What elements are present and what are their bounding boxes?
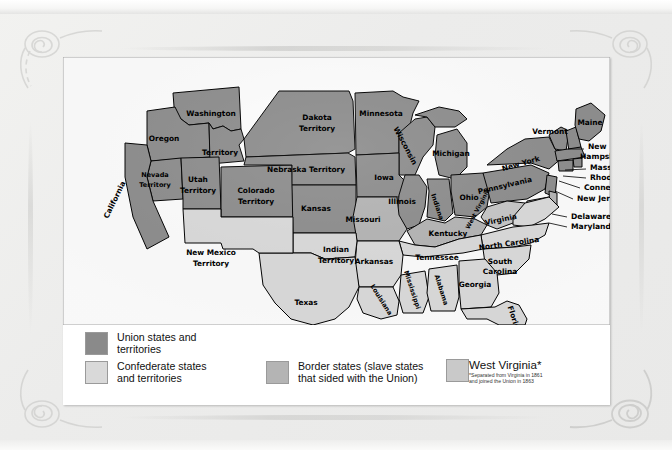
map-label-dakota-territory-1: Dakota [302, 113, 331, 122]
map-label-maine: Maine [577, 118, 602, 127]
map-label-iowa: Iowa [374, 173, 394, 182]
legend-label-union: Union states and territories [117, 331, 197, 356]
leader-line-connecticut [559, 181, 580, 188]
legend-label-west-virginia: West Virginia* [469, 358, 543, 371]
map-label-texas: Texas [294, 298, 318, 307]
map-label-michigan: Michigan [432, 149, 470, 158]
map-label-utah-territory-2: Territory [180, 186, 216, 195]
us-civil-war-map: WashingtonTerritoryOregonCaliforniaNevad… [63, 57, 610, 325]
legend-item-confederate: Confederate states and territories [85, 360, 207, 385]
map-callout-delaware: Delaware [571, 212, 610, 221]
map-label-oregon: Oregon [149, 134, 180, 143]
map-label-nebraska-territory: Nebraska Territory [267, 165, 345, 174]
map-label-utah-territory-1: Utah [188, 175, 208, 184]
map-label-vermont: Vermont [532, 127, 568, 136]
map-callout-massachusetts: Massachusetts [590, 163, 610, 172]
map-callout-rhode-island: Rhode Island [590, 173, 610, 182]
legend-item-border-states: Border states (slave states that sided w… [266, 360, 423, 385]
legend-swatch-border-states [266, 361, 289, 384]
legend-swatch-confederate [85, 361, 108, 384]
map-panel: WashingtonTerritoryOregonCaliforniaNevad… [63, 57, 610, 405]
map-legend: Union states and territories Confederate… [63, 325, 610, 405]
map-label-illinois: Illinois [388, 197, 416, 206]
legend-label-border-states: Border states (slave states that sided w… [298, 360, 423, 385]
map-label-arkansas: Arkansas [355, 257, 394, 266]
legend-item-west-virginia: West Virginia* *Separated from Virginia … [446, 358, 543, 384]
map-label-kentucky: Kentucky [429, 229, 468, 238]
leader-line-delaware [552, 214, 567, 217]
territory-nevada [147, 158, 183, 201]
scanned-page: WashingtonTerritoryOregonCaliforniaNevad… [0, 0, 672, 450]
map-label-new-mexico-2: Territory [193, 259, 229, 268]
border-flourish-top [120, 46, 550, 51]
map-label-missouri: Missouri [345, 215, 380, 224]
map-label-indian-territory-2: Territory [318, 256, 354, 265]
map-label-nevada-territory-2: Territory [139, 181, 171, 189]
legend-swatch-west-virginia [446, 359, 469, 382]
map-label-south-carolina-2: Carolina [483, 267, 517, 276]
border-flourish-bottom [120, 415, 550, 420]
map-label-dakota-territory-2: Territory [299, 124, 335, 133]
map-label-california: California [102, 180, 128, 220]
map-label-new-mexico-1: New Mexico [186, 248, 236, 257]
map-callout-connecticut: Connecticut [584, 183, 610, 192]
leader-line-rhode-island [563, 176, 586, 178]
legend-footnote-west-virginia: *Separated from Virginia in 1861 and joi… [469, 372, 543, 384]
map-label-ohio: Ohio [459, 193, 478, 202]
map-label-tennessee: Tennessee [415, 253, 458, 262]
leader-line-new-jersey [555, 191, 573, 199]
legend-swatch-union [85, 332, 108, 355]
map-label-colorado-territory-2: Territory [238, 197, 274, 206]
state-virginia [513, 197, 559, 227]
map-label-colorado-territory-1: Colorado [237, 186, 274, 195]
map-label-minnesota: Minnesota [359, 109, 402, 118]
map-label-washington-territory: Territory [202, 148, 238, 157]
map-label-georgia: Georgia [459, 280, 492, 289]
map-label-south-carolina-1: South [488, 257, 512, 266]
map-callout-new-hampshire: NewHampshire [580, 142, 610, 161]
map-label-kansas: Kansas [301, 204, 331, 213]
leader-line-maryland [549, 223, 567, 227]
map-label-washington: Washington [186, 109, 236, 118]
border-flourish-left [28, 120, 33, 335]
page-top-edge [0, 0, 672, 14]
map-figure: WashingtonTerritoryOregonCaliforniaNevad… [63, 57, 610, 325]
map-callout-maryland: Maryland [571, 222, 610, 231]
border-flourish-right [639, 120, 644, 335]
map-callout-new-jersey: New Jersey [577, 194, 610, 203]
legend-item-union: Union states and territories [85, 331, 197, 356]
page-bottom-edge [0, 440, 672, 450]
legend-label-confederate: Confederate states and territories [117, 360, 207, 385]
map-label-nevada-territory-1: Nevada [141, 171, 169, 179]
map-label-indian-territory-1: Indian [323, 245, 349, 254]
